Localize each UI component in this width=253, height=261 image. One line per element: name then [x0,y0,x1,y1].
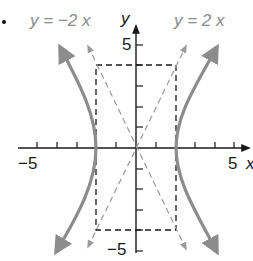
asymptote-label-2x: y = 2 x [174,12,225,29]
hyperbola-left-branch [56,47,96,252]
y-tick-label-min: −5 [107,241,126,258]
x-tick-label-min: −5 [18,155,37,172]
hyperbola-right-branch [176,47,217,252]
y-axis [136,26,143,253]
y-tick-label-max: 5 [122,36,131,53]
x-tick-label-max: 5 [228,155,237,172]
x-axis [18,142,249,148]
asymptote-label-neg2x: y = −2 x [30,12,90,29]
x-axis-label: x [246,155,253,172]
y-axis-label: y [121,10,130,27]
